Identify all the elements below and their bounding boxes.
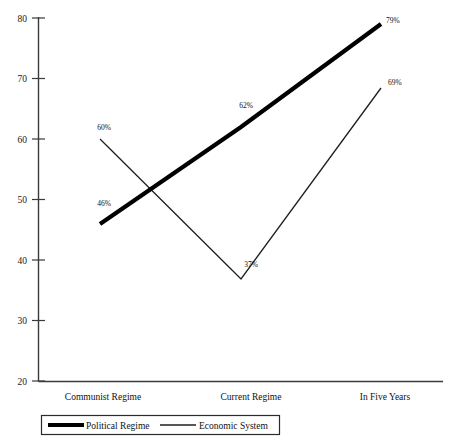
legend-label-political-regime: Political Regime — [86, 421, 150, 431]
data-label-economic-0: 60% — [97, 123, 111, 132]
y-tick-label-50: 50 — [18, 195, 28, 205]
y-tick-label-30: 30 — [18, 316, 28, 326]
x-category-label-1: Current Regime — [221, 392, 282, 402]
data-label-political-0: 46% — [97, 199, 111, 208]
line-chart: 80 70 60 50 40 30 20 60% 37% 69% 46% 62%… — [0, 0, 449, 447]
data-label-political-2: 79% — [386, 16, 400, 25]
x-category-label-2: In Five Years — [360, 392, 411, 402]
data-label-economic-2: 69% — [388, 78, 402, 87]
series-line-economic-system — [100, 88, 381, 279]
data-label-economic-1: 37% — [244, 260, 258, 269]
y-tick-label-40: 40 — [18, 256, 28, 266]
y-tick-label-20: 20 — [18, 377, 28, 387]
series-line-political-regime — [100, 24, 381, 224]
y-tick-label-60: 60 — [18, 135, 28, 145]
legend-label-economic-system: Economic System — [199, 421, 268, 431]
data-label-political-1: 62% — [239, 101, 253, 110]
y-tick-label-70: 70 — [18, 74, 28, 84]
x-category-label-0: Communist Regime — [65, 392, 141, 402]
chart-canvas: 80 70 60 50 40 30 20 60% 37% 69% 46% 62%… — [0, 0, 449, 447]
y-tick-label-80: 80 — [18, 14, 28, 24]
